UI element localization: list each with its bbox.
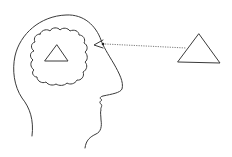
- head-profile: [14, 15, 123, 148]
- eye-icon: [94, 40, 103, 48]
- head-perception-diagram: [0, 0, 232, 157]
- brain-cloud: [30, 28, 87, 86]
- mental-triangle: [45, 45, 68, 61]
- diagram-canvas: [0, 0, 232, 157]
- external-triangle: [178, 34, 220, 63]
- line-of-sight: [105, 44, 186, 48]
- pupil-dot: [102, 43, 105, 46]
